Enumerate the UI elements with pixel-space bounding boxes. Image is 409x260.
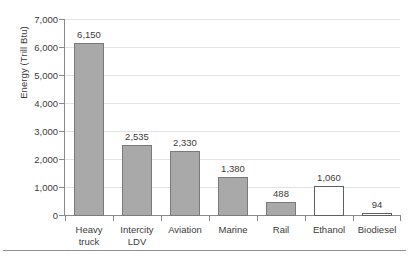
bar-rail[interactable] <box>266 202 296 216</box>
bar-value-label: 1,060 <box>299 173 359 183</box>
bars-layer: 6,150 Heavy truck 2,535 Intercity LDV 2,… <box>0 0 409 260</box>
bar-aviation[interactable] <box>170 151 200 216</box>
bar-intercity-ldv[interactable] <box>122 145 152 216</box>
bar-ethanol[interactable] <box>314 186 344 216</box>
category-label-biodiesel: Biodiesel <box>345 224 409 236</box>
bar-value-label: 488 <box>251 189 311 199</box>
bar-biodiesel[interactable] <box>362 213 392 216</box>
bar-marine[interactable] <box>218 177 248 216</box>
bar-value-label: 6,150 <box>59 30 119 40</box>
bar-value-label: 2,330 <box>155 138 215 148</box>
bar-value-label: 1,380 <box>203 164 263 174</box>
bar-chart: Energy (Trill Btu) 7,000 6,000 5,000 4,0… <box>0 0 409 260</box>
bar-value-label: 94 <box>347 200 407 210</box>
bottom-divider <box>3 250 406 251</box>
bar-heavy-truck[interactable] <box>74 43 104 216</box>
